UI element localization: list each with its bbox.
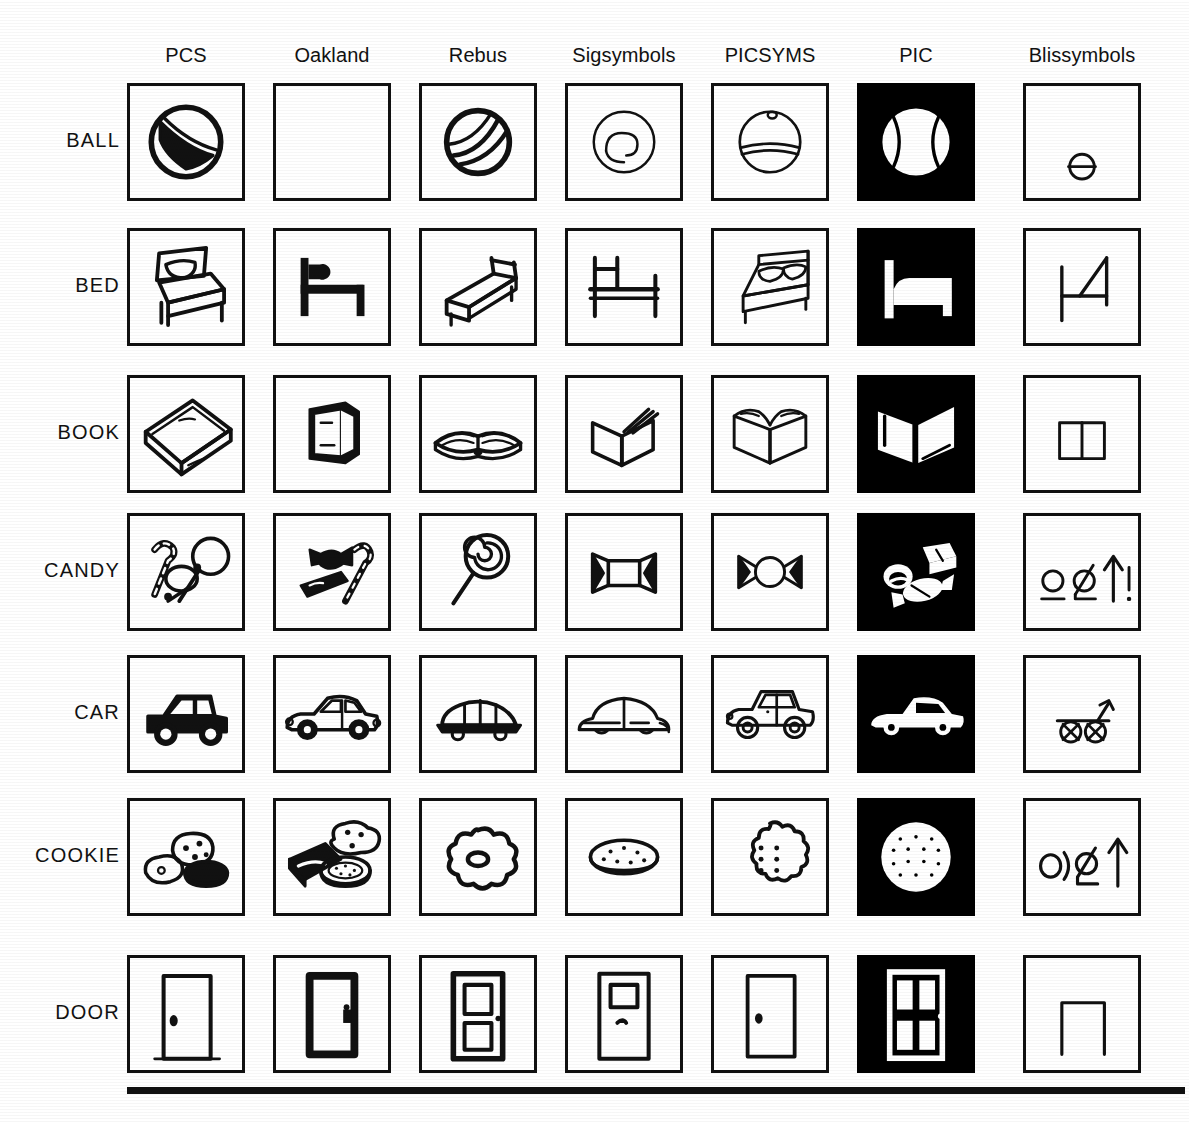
symbol-cell-oakland-candy <box>273 513 391 631</box>
column-header-pcs: PCS <box>107 40 265 70</box>
symbol-cell-picsyms-car <box>711 655 829 773</box>
open-book-with-pages-icon <box>422 378 534 490</box>
bed-angled-frame-icon <box>422 231 534 343</box>
wrapped-candy-round-icon <box>714 516 826 628</box>
symbol-cell-pic-bed <box>857 228 975 346</box>
circle-paren-phi-arrow-icon <box>1026 801 1138 913</box>
symbol-cell-blissymbols-car <box>1023 655 1141 773</box>
symbol-cell-pic-ball <box>857 83 975 201</box>
bed-side-outline-icon <box>568 231 680 343</box>
bottom-rule <box>127 1087 1185 1094</box>
spiral-lollipop-icon <box>422 516 534 628</box>
symbol-cell-pcs-bed <box>127 228 245 346</box>
ball-swirl-outline-icon <box>568 86 680 198</box>
oval-cookie-speckled-icon <box>568 801 680 913</box>
symbol-cell-sigsymbols-car <box>565 655 683 773</box>
column-header-row: PCS Oakland Rebus Sigsymbols PICSYMS PIC… <box>0 40 1189 72</box>
symbol-cell-oakland-ball <box>273 83 391 201</box>
symbol-cell-sigsymbols-ball <box>565 83 683 201</box>
divided-rectangle-icon <box>1026 378 1138 490</box>
symbol-comparison-chart: PCS Oakland Rebus Sigsymbols PICSYMS PIC… <box>0 0 1189 1122</box>
bed-side-simple-icon <box>276 231 388 343</box>
symbol-cell-blissymbols-door <box>1023 955 1141 1073</box>
symbol-cell-picsyms-bed <box>711 228 829 346</box>
cookies-and-package-icon <box>276 801 388 913</box>
symbol-cell-blissymbols-book <box>1023 375 1141 493</box>
closed-book-3d-icon <box>130 378 242 490</box>
car-white-on-black-icon <box>860 658 972 770</box>
symbol-cell-blissymbols-candy <box>1023 513 1141 631</box>
bed-with-pillow-3d-icon <box>130 231 242 343</box>
column-header-pic: PIC <box>837 40 995 70</box>
ball-with-curved-bands-icon <box>422 86 534 198</box>
symbol-cell-rebus-cookie <box>419 798 537 916</box>
open-book-fanned-pages-icon <box>568 378 680 490</box>
wrapped-candy-square-icon <box>568 516 680 628</box>
symbol-cell-picsyms-book <box>711 375 829 493</box>
symbol-cell-pic-book <box>857 375 975 493</box>
column-header-rebus: Rebus <box>399 40 557 70</box>
circle-phi-arrow-bang-icon <box>1026 516 1138 628</box>
car-solid-side-icon <box>130 658 242 770</box>
row-label-ball: BALL <box>0 129 120 152</box>
cookie-white-on-black-icon <box>860 801 972 913</box>
symbol-cell-blissymbols-bed <box>1023 228 1141 346</box>
column-header-oakland: Oakland <box>253 40 411 70</box>
symbol-cell-oakland-bed <box>273 228 391 346</box>
three-cookies-icon <box>130 801 242 913</box>
symbol-cell-rebus-car <box>419 655 537 773</box>
symbol-cell-pcs-cookie <box>127 798 245 916</box>
open-book-white-on-black-icon <box>860 378 972 490</box>
sedan-side-detailed-icon <box>276 658 388 770</box>
door-four-panel-white-on-black-icon <box>860 958 972 1070</box>
standing-book-icon <box>276 378 388 490</box>
symbol-cell-picsyms-cookie <box>711 798 829 916</box>
flower-cookie-with-hole-icon <box>422 801 534 913</box>
row-label-book: BOOK <box>0 421 120 444</box>
row-label-bed: BED <box>0 274 120 297</box>
door-two-panels-icon <box>422 958 534 1070</box>
symbol-cell-picsyms-door <box>711 955 829 1073</box>
beach-ball-with-stripe-icon <box>130 86 242 198</box>
symbol-cell-oakland-book <box>273 375 391 493</box>
symbol-cell-pic-candy <box>857 513 975 631</box>
symbol-cell-oakland-cookie <box>273 798 391 916</box>
column-header-picsyms: PICSYMS <box>691 40 849 70</box>
circle-with-bar-icon <box>1026 86 1138 198</box>
row-label-door: DOOR <box>0 1001 120 1024</box>
symbol-cell-oakland-car <box>273 655 391 773</box>
door-with-window-icon <box>568 958 680 1070</box>
door-with-knob-icon <box>130 958 242 1070</box>
doorway-arch-icon <box>1026 958 1138 1070</box>
symbol-cell-pcs-door <box>127 955 245 1073</box>
symbol-cell-rebus-ball <box>419 83 537 201</box>
symbol-cell-pcs-book <box>127 375 245 493</box>
symbol-cell-sigsymbols-book <box>565 375 683 493</box>
bed-h-glyph-diagonal-icon <box>1026 231 1138 343</box>
blank-icon <box>276 86 388 198</box>
candy-cane-and-lollipops-icon <box>130 516 242 628</box>
wrapped-candy-bar-cane-icon <box>276 516 388 628</box>
row-label-candy: CANDY <box>0 559 120 582</box>
row-label-cookie: COOKIE <box>0 844 120 867</box>
door-plain-knob-icon <box>714 958 826 1070</box>
symbol-cell-sigsymbols-bed <box>565 228 683 346</box>
door-thick-frame-icon <box>276 958 388 1070</box>
symbol-cell-pcs-car <box>127 655 245 773</box>
symbol-cell-pic-car <box>857 655 975 773</box>
cart-two-crossed-wheels-icon <box>1026 658 1138 770</box>
symbol-cell-pcs-candy <box>127 513 245 631</box>
symbol-cell-rebus-door <box>419 955 537 1073</box>
car-classic-outline-icon <box>714 658 826 770</box>
car-beetle-outline-icon <box>568 658 680 770</box>
open-book-wide-icon <box>714 378 826 490</box>
symbol-cell-pic-door <box>857 955 975 1073</box>
symbol-cell-pcs-ball <box>127 83 245 201</box>
candies-white-on-black-icon <box>860 516 972 628</box>
symbol-cell-oakland-door <box>273 955 391 1073</box>
bed-white-on-black-icon <box>860 231 972 343</box>
symbol-cell-blissymbols-cookie <box>1023 798 1141 916</box>
ball-white-on-black-icon <box>860 86 972 198</box>
symbol-cell-rebus-book <box>419 375 537 493</box>
scalloped-cookie-dots-icon <box>714 801 826 913</box>
